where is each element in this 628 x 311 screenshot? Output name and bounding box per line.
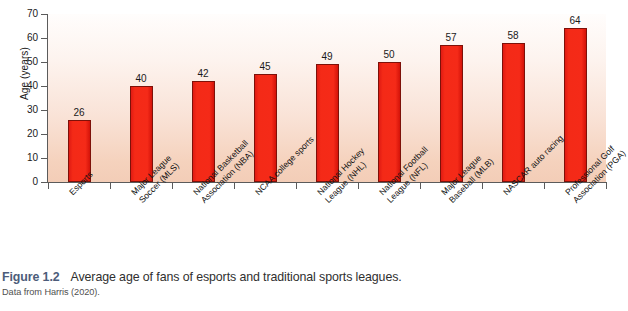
x-tick-mark (296, 183, 297, 189)
bar-value-label: 57 (431, 32, 471, 43)
bar-value-label: 58 (493, 30, 533, 41)
bar-value-label: 42 (183, 68, 223, 79)
y-tick-mark (41, 86, 47, 87)
bar (564, 28, 587, 182)
x-tick-mark (358, 183, 359, 189)
bar (502, 43, 525, 182)
x-tick-mark (606, 183, 607, 189)
y-tick-label: 40 (10, 80, 38, 91)
y-tick-mark (41, 182, 47, 183)
bar-value-label: 64 (555, 15, 595, 26)
bar-chart: Age (years) 010203040506070 264042454950… (0, 0, 616, 262)
y-tick-label: 70 (10, 8, 38, 19)
caption-text: Average age of fans of esports and tradi… (71, 270, 402, 284)
y-axis-line (47, 14, 48, 183)
figure-number: Figure 1.2 (2, 270, 60, 284)
bar (130, 86, 153, 182)
bar (440, 45, 463, 182)
y-tick-label: 60 (10, 32, 38, 43)
x-tick-mark (482, 183, 483, 189)
bar (192, 81, 215, 182)
bar-value-label: 45 (245, 61, 285, 72)
caption-line: Figure 1.2Average age of fans of esports… (2, 270, 614, 284)
bar-value-label: 26 (59, 107, 99, 118)
x-tick-mark (234, 183, 235, 189)
bar-value-label: 40 (121, 73, 161, 84)
y-tick-mark (41, 14, 47, 15)
y-tick-mark (41, 62, 47, 63)
x-tick-mark (420, 183, 421, 189)
x-tick-mark (172, 183, 173, 189)
y-tick-mark (41, 134, 47, 135)
y-tick-mark (41, 38, 47, 39)
figure-caption: Figure 1.2Average age of fans of esports… (2, 270, 614, 297)
bar (316, 64, 339, 182)
y-tick-label: 0 (10, 176, 38, 187)
bar (254, 74, 277, 182)
x-tick-mark (110, 183, 111, 189)
bar-value-label: 50 (369, 49, 409, 60)
caption-source: Data from Harris (2020). (2, 287, 614, 297)
y-tick-mark (41, 158, 47, 159)
y-tick-label: 10 (10, 152, 38, 163)
x-tick-mark (48, 183, 49, 189)
bar-value-label: 49 (307, 51, 347, 62)
x-tick-mark (544, 183, 545, 189)
bar (378, 62, 401, 182)
y-tick-mark (41, 110, 47, 111)
y-tick-label: 30 (10, 104, 38, 115)
y-tick-label: 50 (10, 56, 38, 67)
y-tick-label: 20 (10, 128, 38, 139)
